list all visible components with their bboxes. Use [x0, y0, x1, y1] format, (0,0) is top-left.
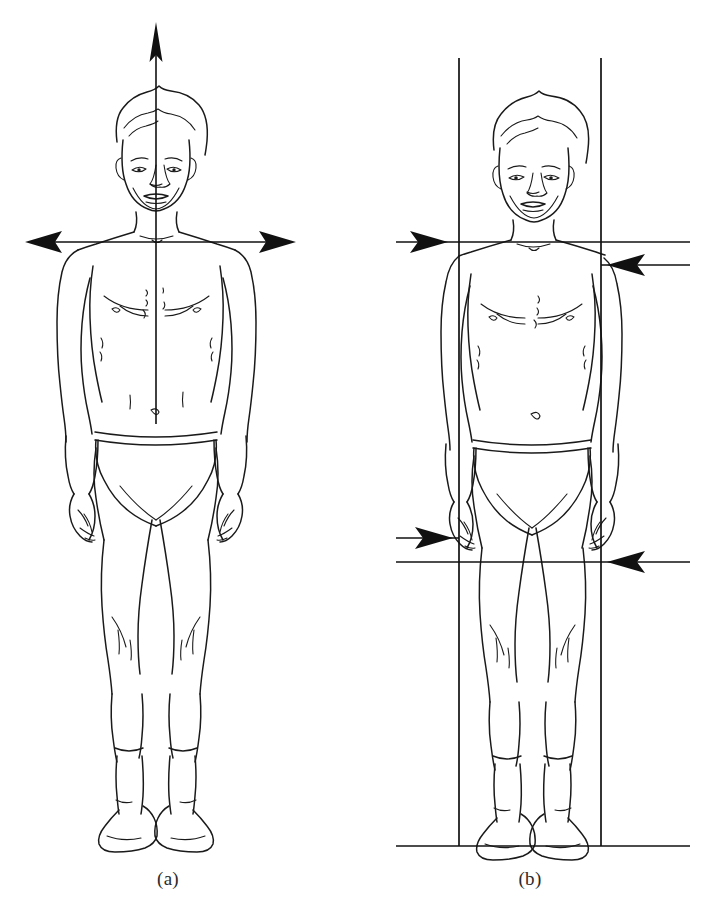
page-background — [0, 0, 706, 912]
panel-a-caption: (a) — [128, 868, 208, 890]
panel-b-caption: (b) — [490, 868, 570, 890]
anatomical-figure-canvas: .ink { fill: none; stroke: #1a1a1a; stro… — [0, 0, 706, 912]
figure-root: .ink { fill: none; stroke: #1a1a1a; stro… — [0, 0, 706, 912]
